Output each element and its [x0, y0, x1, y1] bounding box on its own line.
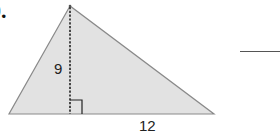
- answer-blank[interactable]: [240, 51, 280, 52]
- height-label: 9: [54, 61, 62, 76]
- apex-vertex: [69, 5, 72, 8]
- triangle-shape: [9, 6, 214, 114]
- base-label: 12: [139, 118, 156, 133]
- triangle-figure: [0, 0, 280, 136]
